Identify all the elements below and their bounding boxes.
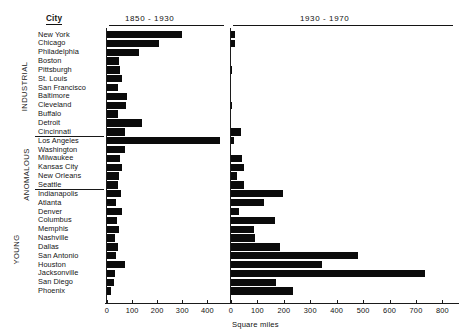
bar [231, 190, 283, 197]
bar [231, 137, 234, 144]
x-axis-tick [231, 300, 232, 304]
x-axis-tick [416, 300, 417, 304]
bar [231, 243, 280, 250]
x-axis-tick [363, 300, 364, 304]
bar [231, 252, 358, 259]
x-axis-tick-label: 800 [427, 306, 457, 315]
x-axis-tick [310, 300, 311, 304]
bar [231, 208, 239, 215]
x-axis-tick [337, 300, 338, 304]
bar [231, 217, 275, 224]
bar [231, 40, 235, 47]
bar [231, 172, 237, 179]
bar [231, 279, 276, 286]
bar [231, 155, 242, 162]
x-axis-tick [257, 300, 258, 304]
bar [231, 181, 244, 188]
panel-top-rule [233, 25, 453, 26]
bar [231, 199, 264, 206]
bar [231, 164, 244, 171]
bar [231, 128, 241, 135]
x-axis-tick [390, 300, 391, 304]
bar [231, 226, 254, 233]
bar [231, 234, 255, 241]
bar [231, 66, 232, 73]
bar [231, 270, 425, 277]
x-axis-caption: Square miles [232, 320, 279, 329]
figure-root: INDUSTRIAL ANOMALOUS YOUNG City New York… [0, 0, 461, 336]
bar [231, 102, 232, 109]
x-axis-tick [442, 300, 443, 304]
bar [231, 31, 235, 38]
bar [231, 261, 322, 268]
x-axis-tick [284, 300, 285, 304]
x-axis-line [229, 303, 459, 304]
panel-1930-1970: 1930 - 19700100200300400500600700800 [0, 0, 461, 336]
bar [231, 287, 293, 294]
panel-title: 1930 - 1970 [300, 14, 349, 23]
